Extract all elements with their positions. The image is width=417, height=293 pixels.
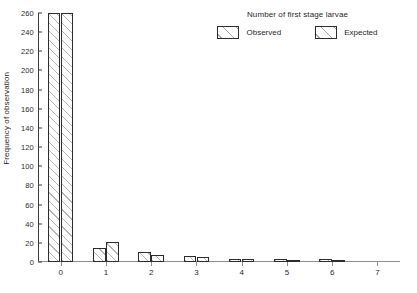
y-tick-label: 260 bbox=[21, 9, 34, 18]
x-tick-label: 3 bbox=[194, 268, 198, 277]
x-tick-mark bbox=[287, 262, 288, 266]
y-tick-label: 20 bbox=[25, 238, 34, 247]
legend-swatch-expected bbox=[315, 26, 337, 39]
bar-expected-6 bbox=[332, 260, 345, 262]
x-tick-mark bbox=[61, 262, 62, 266]
x-tick-label: 0 bbox=[58, 268, 62, 277]
bar-expected-2 bbox=[151, 255, 164, 262]
y-tick-label: 160 bbox=[21, 104, 34, 113]
bar-expected-4 bbox=[242, 259, 255, 262]
y-tick-label: 140 bbox=[21, 123, 34, 132]
x-tick-label: 6 bbox=[330, 268, 334, 277]
y-tick-label: 80 bbox=[25, 181, 34, 190]
bar-expected-5 bbox=[287, 260, 300, 262]
y-tick-label: 60 bbox=[25, 200, 34, 209]
legend-swatch-observed bbox=[217, 26, 239, 39]
bar-observed-3 bbox=[184, 256, 197, 262]
legend: Number of first stage larvae ObservedExp… bbox=[190, 10, 405, 39]
x-tick-mark bbox=[377, 262, 378, 266]
x-tick-label: 1 bbox=[104, 268, 108, 277]
y-tick-label: 220 bbox=[21, 47, 34, 56]
x-tick-mark bbox=[332, 262, 333, 266]
y-tick-label: 120 bbox=[21, 143, 34, 152]
y-tick-label: 200 bbox=[21, 66, 34, 75]
legend-label: Expected bbox=[344, 28, 377, 37]
chart-container: Frequency of observation 020406080100120… bbox=[0, 0, 417, 293]
bar-observed-1 bbox=[93, 248, 106, 262]
bar-observed-6 bbox=[319, 259, 332, 262]
bar-expected-0 bbox=[61, 13, 74, 262]
x-tick-mark bbox=[151, 262, 152, 266]
y-tick-label: 40 bbox=[25, 219, 34, 228]
y-tick-label: 180 bbox=[21, 85, 34, 94]
y-tick-label: 0 bbox=[30, 258, 34, 267]
x-tick-label: 5 bbox=[285, 268, 289, 277]
legend-label: Observed bbox=[246, 28, 281, 37]
y-tick-label: 240 bbox=[21, 28, 34, 37]
plot-area bbox=[38, 13, 400, 262]
x-tick-label: 7 bbox=[375, 268, 379, 277]
y-axis-label: Frequency of observation bbox=[2, 72, 15, 165]
x-tick-mark bbox=[106, 262, 107, 266]
bar-observed-2 bbox=[138, 252, 151, 262]
y-tick-label: 100 bbox=[21, 162, 34, 171]
bar-expected-1 bbox=[106, 242, 119, 262]
legend-title: Number of first stage larvae bbox=[190, 10, 405, 19]
legend-item-expected: Expected bbox=[315, 26, 377, 39]
bar-observed-4 bbox=[229, 259, 242, 262]
x-tick-label: 2 bbox=[149, 268, 153, 277]
x-tick-mark bbox=[196, 262, 197, 266]
x-tick-label: 4 bbox=[239, 268, 243, 277]
legend-item-observed: Observed bbox=[217, 26, 281, 39]
legend-items: ObservedExpected bbox=[190, 26, 405, 39]
x-tick-mark bbox=[242, 262, 243, 266]
bar-expected-3 bbox=[197, 257, 210, 262]
bar-observed-5 bbox=[274, 259, 287, 262]
bar-observed-0 bbox=[48, 13, 61, 262]
